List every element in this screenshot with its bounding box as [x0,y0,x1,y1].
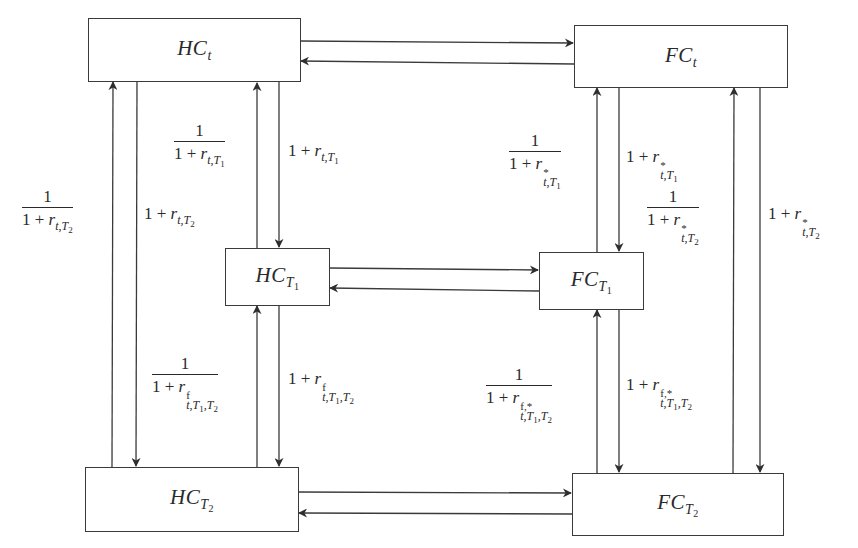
arrow-fct2-to-fct [733,88,734,473]
node-label: FCT2 [657,490,699,519]
label-fct1-to-fct2: 1 + rf,*t,T1,T2 [626,376,692,409]
node-fc-t1: FCT1 [539,252,644,310]
label-fct2-to-fct: 11 + r*t,T2 [647,188,699,244]
label-fct-to-fct2: 1 + r*t,T2 [768,205,820,238]
label-hct-to-hct1: 1 + rt,T1 [288,142,339,159]
arrow-fct2-to-hct2 [299,513,572,514]
label-fct-to-fct1: 1 + r*t,T1 [626,148,678,181]
arrow-hct-to-fct [300,41,573,43]
node-hc-t1: HCT1 [225,248,330,306]
label-hct2-to-hct1: 11 + rft,T1,T2 [152,355,218,411]
node-label: FCT1 [571,267,613,296]
arrow-hct-to-hct2 [136,81,137,466]
label-hct2-to-hct: 11 + rt,T2 [22,188,73,228]
node-label: HCt [177,36,212,64]
arrow-fct-to-hct [301,61,574,64]
arrow-hct1-to-fct1 [329,268,538,270]
node-label: HCT2 [170,485,214,514]
label-fct1-to-fct: 11 + r*t,T1 [509,132,561,188]
node-hc-t2: HCT2 [85,467,299,532]
arrow-hct2-to-fct2 [298,492,571,493]
node-label: HCT1 [256,263,300,292]
label-hct-to-hct2: 1 + rt,T2 [144,205,195,222]
arrow-hct2-to-hct [112,82,113,467]
arrow-fct1-to-hct1 [330,288,539,291]
label-hct1-to-hct2: 1 + rft,T1,T2 [288,370,354,403]
label-hct1-to-hct: 11 + rt,T1 [174,122,225,162]
node-label: FCt [665,43,697,71]
node-hc-t: HCt [88,18,301,82]
node-fc-t: FCt [574,25,788,88]
node-fc-t2: FCT2 [572,473,784,536]
label-fct2-to-fct1: 11 + rf,*t,T1,T2 [486,366,552,422]
